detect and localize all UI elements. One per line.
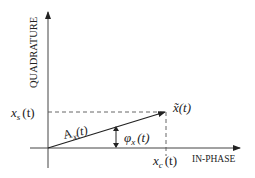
phase-label: φx(t) bbox=[124, 130, 149, 147]
quadrature-component-label: xs(t) bbox=[10, 105, 35, 122]
phasor-diagram: QUADRATURE IN-PHASE xs(t) xc(t) Ax(t) φx… bbox=[0, 0, 255, 178]
in-phase-component-label: xc(t) bbox=[152, 153, 177, 170]
amplitude-label: Ax(t) bbox=[62, 123, 90, 144]
in-phase-axis-label: IN-PHASE bbox=[192, 154, 235, 164]
phase-angle-indicator bbox=[113, 126, 119, 148]
phasor-label: x̃(t) bbox=[172, 100, 191, 115]
quadrature-axis-label: QUADRATURE bbox=[28, 17, 39, 88]
